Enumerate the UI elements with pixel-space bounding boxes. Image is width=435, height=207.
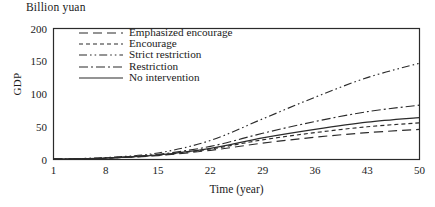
legend: Emphasized encourageEncourageStrict rest… — [78, 27, 268, 83]
series-line — [54, 105, 420, 159]
gdp-scenario-line-chart: Billion yuan GDP 200150100500 1815222936… — [0, 0, 435, 207]
legend-line-sample — [78, 38, 124, 49]
series-line — [54, 118, 420, 160]
legend-item-label: No intervention — [124, 72, 200, 83]
legend-item: No intervention — [78, 72, 268, 83]
legend-line-sample — [78, 27, 124, 38]
legend-item-label: Strict restriction — [124, 49, 201, 60]
legend-line-sample — [78, 61, 124, 72]
legend-line-sample — [78, 49, 124, 60]
legend-item: Strict restriction — [78, 49, 268, 60]
x-axis-title: Time (year) — [53, 183, 420, 195]
series-line — [54, 123, 420, 159]
legend-line-sample — [78, 72, 124, 83]
